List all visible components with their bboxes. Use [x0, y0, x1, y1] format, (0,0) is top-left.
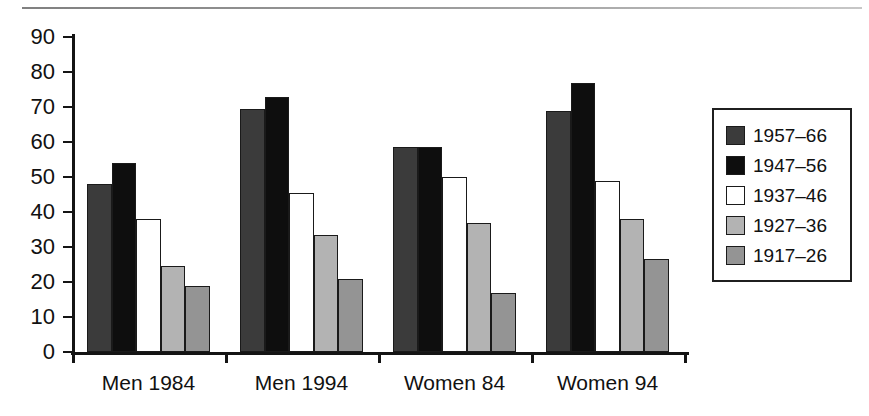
y-axis-tick-label: 60 [31, 131, 55, 153]
x-axis-tick [225, 352, 228, 363]
y-axis-tick: 20 [63, 281, 72, 283]
plot-area: 9080706050403020100 [72, 37, 684, 352]
bar [240, 109, 265, 352]
x-axis-tick [72, 352, 75, 363]
legend-item-label: 1957–66 [753, 126, 827, 145]
bar [620, 219, 645, 352]
x-axis-label: Women 94 [531, 372, 684, 393]
bar [136, 219, 161, 352]
bar [644, 259, 669, 352]
legend-swatch-icon [726, 126, 745, 145]
x-axis-label: Women 84 [378, 372, 531, 393]
legend-item-label: 1927–36 [753, 216, 827, 235]
legend-item-label: 1917–26 [753, 246, 827, 265]
x-axis-tick [378, 352, 381, 363]
y-axis-tick: 0 [63, 351, 72, 353]
y-axis-tick: 10 [63, 316, 72, 318]
x-axis-label: Men 1994 [225, 372, 378, 393]
bar [185, 286, 210, 353]
legend-item: 1937–46 [726, 180, 842, 210]
bar [442, 177, 467, 352]
y-axis-tick-label: 20 [31, 271, 55, 293]
y-axis-tick-label: 50 [31, 166, 55, 188]
y-axis-tick: 60 [63, 141, 72, 143]
legend-swatch-icon [726, 156, 745, 175]
legend-item: 1917–26 [726, 240, 842, 270]
bar [161, 266, 186, 352]
bar [289, 193, 314, 352]
legend-swatch-icon [726, 216, 745, 235]
legend-swatch-icon [726, 186, 745, 205]
chart-legend: 1957–661947–561937–461927–361917–26 [712, 108, 852, 282]
legend-item-label: 1947–56 [753, 156, 827, 175]
bar [595, 181, 620, 353]
y-axis-tick-label: 30 [31, 236, 55, 258]
bar [265, 97, 290, 353]
bar [491, 293, 516, 353]
y-axis-tick-label: 90 [31, 26, 55, 48]
legend-item: 1957–66 [726, 120, 842, 150]
y-axis-tick: 30 [63, 246, 72, 248]
bar [467, 223, 492, 353]
bar [546, 111, 571, 353]
y-axis-tick: 90 [63, 36, 72, 38]
y-axis-tick: 50 [63, 176, 72, 178]
y-axis-tick-label: 40 [31, 201, 55, 223]
x-axis-label: Men 1984 [72, 372, 225, 393]
legend-item: 1927–36 [726, 210, 842, 240]
bar-chart-figure: 9080706050403020100 1957–661947–561937–4… [0, 0, 869, 416]
legend-item-label: 1937–46 [753, 186, 827, 205]
x-axis-tick [684, 352, 687, 363]
bar [338, 279, 363, 353]
y-axis-tick: 40 [63, 211, 72, 213]
y-axis-tick-label: 80 [31, 61, 55, 83]
bar [418, 147, 443, 352]
y-axis-tick-label: 70 [31, 96, 55, 118]
page-rule-divider [22, 7, 862, 9]
y-axis-tick-label: 0 [43, 341, 55, 363]
y-axis-tick: 70 [63, 106, 72, 108]
x-axis-tick [531, 352, 534, 363]
bar [112, 163, 137, 352]
bar [314, 235, 339, 352]
bar [87, 184, 112, 352]
y-axis-tick: 80 [63, 71, 72, 73]
legend-item: 1947–56 [726, 150, 842, 180]
legend-swatch-icon [726, 246, 745, 265]
bar [571, 83, 596, 353]
y-axis-tick-label: 10 [31, 306, 55, 328]
bar [393, 147, 418, 352]
